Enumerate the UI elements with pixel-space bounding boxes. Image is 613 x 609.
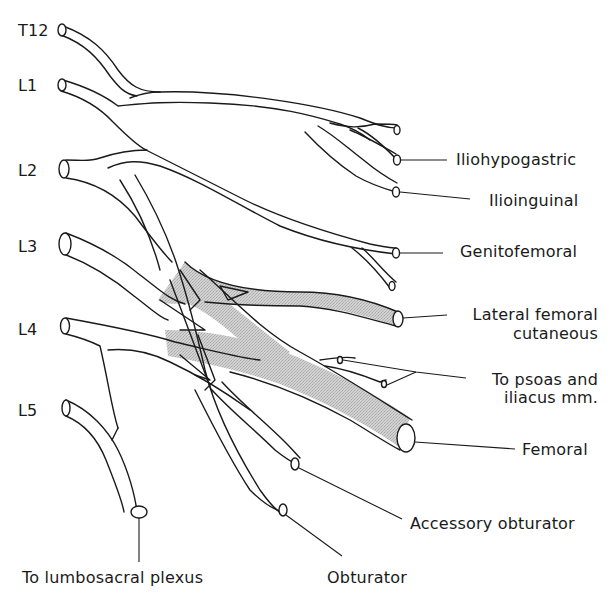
lateral-femoral-cutaneous-end bbox=[393, 311, 403, 327]
nerve-t12 bbox=[58, 24, 398, 128]
label-ilioinguinal: Ilioinguinal bbox=[489, 192, 579, 210]
label-lateral-femoral-cutaneous-1: Lateral femoral bbox=[473, 306, 598, 324]
ilioinguinal-end bbox=[393, 187, 400, 197]
accessory-obturator-end bbox=[291, 458, 299, 470]
leader-obturator bbox=[286, 515, 342, 556]
label-root-t12: T12 bbox=[18, 22, 49, 40]
l5-root-end bbox=[62, 400, 70, 416]
t12-root-end bbox=[58, 24, 66, 36]
l1-root-end bbox=[58, 79, 66, 91]
leader-lateral-femoral-cutaneous bbox=[403, 315, 447, 318]
iliohypogastric-end bbox=[394, 155, 401, 165]
psoas-branch-2-end bbox=[382, 381, 387, 388]
label-psoas-iliacus-2: iliacus mm. bbox=[504, 389, 598, 407]
label-femoral: Femoral bbox=[522, 441, 588, 459]
label-genitofemoral: Genitofemoral bbox=[460, 243, 577, 261]
leader-psoas-2 bbox=[387, 372, 416, 385]
nerve-l5 bbox=[62, 400, 147, 518]
psoas-branch-1-end bbox=[338, 357, 343, 364]
label-psoas-iliacus-1: To psoas and bbox=[492, 371, 598, 389]
leader-accessory-obturator bbox=[299, 468, 402, 519]
genitofemoral-lower-end bbox=[389, 282, 395, 291]
label-root-l3: L3 bbox=[18, 238, 38, 256]
obturator-end bbox=[279, 504, 287, 516]
leader-femoral bbox=[415, 442, 515, 449]
label-obturator: Obturator bbox=[327, 569, 407, 587]
leader-ilioinguinal bbox=[400, 192, 470, 199]
label-lateral-femoral-cutaneous-2: cutaneous bbox=[513, 325, 598, 343]
nerve-l3 bbox=[59, 233, 185, 320]
l2-root-end bbox=[59, 160, 69, 178]
nerve-l4 bbox=[61, 318, 261, 428]
l3-root-end bbox=[59, 233, 71, 255]
l4-root-end bbox=[61, 318, 70, 334]
label-iliohypogastric: Iliohypogastric bbox=[456, 151, 576, 169]
iliohypogastric-upper-end bbox=[394, 126, 400, 135]
label-root-l5: L5 bbox=[18, 402, 38, 420]
nerve-l1 bbox=[58, 79, 370, 150]
label-root-l4: L4 bbox=[18, 321, 38, 339]
posterior-division-shading bbox=[158, 262, 410, 446]
nerve-obturator bbox=[195, 390, 287, 516]
label-root-l1: L1 bbox=[18, 77, 38, 95]
genitofemoral-end bbox=[393, 248, 400, 258]
lumbosacral-trunk-end bbox=[131, 506, 147, 518]
femoral-end bbox=[397, 424, 415, 452]
label-root-l2: L2 bbox=[18, 162, 38, 180]
label-accessory-obturator: Accessory obturator bbox=[410, 515, 575, 533]
label-lumbosacral: To lumbosacral plexus bbox=[22, 569, 203, 587]
nerve-iliohypogastric-ilioinguinal bbox=[305, 123, 401, 197]
